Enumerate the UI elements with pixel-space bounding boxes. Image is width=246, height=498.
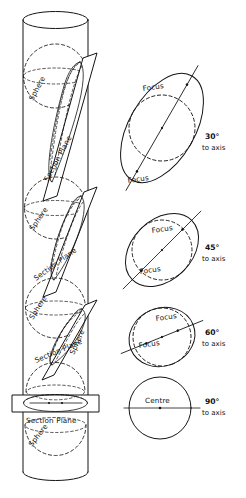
section-view-30: Focus Focus 30° to axis	[97, 49, 226, 207]
cylinder-bottom-arc	[23, 472, 88, 481]
sphere-label-2: Sphere	[27, 205, 50, 232]
axis-label-60: to axis	[202, 340, 226, 348]
axis-label-30: to axis	[202, 144, 226, 152]
sphere-label-5: Sphere	[26, 422, 49, 449]
focus-dot-30-b	[135, 170, 139, 174]
angle-label-45: 45°	[205, 243, 220, 252]
cylinder-group: Sphere Sphere Sphere Sphere Sphere Secti…	[12, 12, 99, 481]
angle-label-60: 60°	[205, 328, 220, 337]
angle-label-90: 90°	[205, 397, 220, 406]
centre-dot-60	[161, 336, 164, 339]
axis-label-45: to axis	[202, 255, 226, 263]
sphere-label-1: Sphere	[27, 74, 47, 102]
focus-label-45-a: Focus	[151, 223, 173, 235]
centre-dot-90	[159, 407, 162, 410]
section-view-90: Centre 90° to axis	[124, 377, 226, 439]
focus-label-60-a: Focus	[155, 311, 177, 323]
centre-label-90: Centre	[145, 396, 170, 405]
cylinder-labels: Sphere Sphere Sphere Sphere Sphere Secti…	[26, 74, 87, 448]
focus-label-45-b: Focus	[139, 264, 161, 276]
focus-dot-30-a	[185, 83, 189, 87]
section-plane-3	[42, 300, 97, 380]
section-view-45: Focus Focus 45° to axis	[102, 190, 226, 310]
section-plane-4	[12, 395, 99, 413]
sphere-label-3: Sphere	[27, 294, 49, 321]
section-plane-label-4: Section Plane	[26, 416, 77, 425]
axis-label-90: to axis	[202, 409, 226, 417]
focus-label-60-b: Focus	[138, 338, 160, 350]
angle-label-30: 30°	[205, 132, 220, 141]
focus-dot-60-a	[176, 329, 179, 332]
section-plane-2	[43, 187, 97, 297]
focus-label-30-b: Focus	[127, 173, 149, 185]
cylinder-sections-figure: Sphere Sphere Sphere Sphere Sphere Secti…	[0, 0, 246, 498]
focus-label-30-a: Focus	[142, 81, 164, 93]
cylinder-top-ellipse	[23, 12, 88, 29]
section-view-60: Focus Focus 60° to axis	[110, 294, 225, 381]
